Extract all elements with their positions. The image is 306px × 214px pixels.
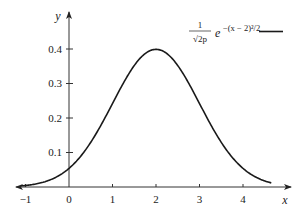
svg-text:0.2: 0.2 (48, 112, 62, 124)
svg-text:1: 1 (110, 193, 116, 205)
legend-exp-base: e (215, 26, 221, 40)
legend-numerator: 1 (198, 20, 203, 30)
svg-text:2: 2 (153, 193, 159, 205)
normal-distribution-chart: −1 0 1 2 3 4 0.1 0.2 0.3 0.4 y x 1 √2p e… (0, 0, 306, 214)
svg-text:0: 0 (66, 193, 72, 205)
legend-denominator: √2p (193, 34, 207, 44)
legend-exponent: −(x − 2)²/2 (223, 23, 260, 33)
y-tick-labels: 0.1 0.2 0.3 0.4 (48, 43, 62, 159)
svg-text:4: 4 (240, 193, 246, 205)
svg-text:0.3: 0.3 (48, 77, 62, 89)
x-tick-labels: −1 0 1 2 3 4 (20, 193, 247, 205)
svg-text:0.1: 0.1 (48, 146, 62, 158)
x-axis-label: x (281, 193, 288, 207)
legend: 1 √2p e −(x − 2)²/2 (189, 20, 283, 44)
svg-text:−1: −1 (20, 193, 32, 205)
svg-text:3: 3 (197, 193, 203, 205)
y-axis-label: y (54, 9, 61, 23)
svg-text:0.4: 0.4 (48, 43, 62, 55)
